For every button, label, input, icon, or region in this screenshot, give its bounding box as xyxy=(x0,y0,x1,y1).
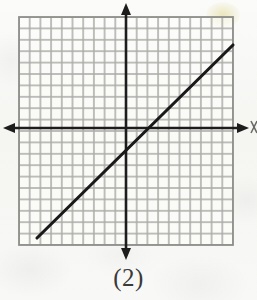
y-axis-up-arrowhead xyxy=(121,3,131,15)
coordinate-plane-graph xyxy=(0,0,257,300)
figure-panel: (2) xyxy=(0,0,257,300)
edge-stray-mark xyxy=(251,121,257,133)
x-axis-right-arrowhead xyxy=(237,123,249,133)
x-axis-left-arrowhead xyxy=(3,123,15,133)
figure-caption: (2) xyxy=(0,264,257,292)
y-axis-down-arrowhead xyxy=(121,248,131,260)
